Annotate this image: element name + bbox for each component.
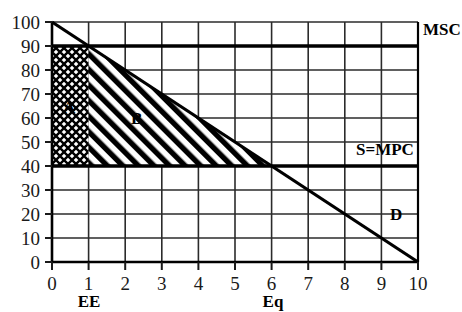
y-tick-label-80: 80	[0, 61, 40, 80]
x-tick-label-4: 4	[183, 274, 213, 293]
x-tick-label-7: 7	[293, 274, 323, 293]
x-tick-label-1: 1	[74, 274, 104, 293]
x-tick-label-9: 9	[366, 274, 396, 293]
x-tick-label-10: 10	[403, 274, 433, 293]
y-tick-label-60: 60	[0, 109, 40, 128]
x-tick-label-0: 0	[37, 274, 67, 293]
region-a-label: A	[63, 99, 75, 116]
msc-curve-label: MSC	[423, 21, 461, 38]
y-tick-label-90: 90	[0, 37, 40, 56]
y-tick-label-50: 50	[0, 133, 40, 152]
x-marker-eq: Eq	[252, 293, 294, 310]
x-tick-label-2: 2	[110, 274, 140, 293]
x-tick-label-5: 5	[220, 274, 250, 293]
demand-curve-label: D	[390, 206, 402, 223]
y-tick-label-40: 40	[0, 157, 40, 176]
y-tick-label-0: 0	[0, 253, 40, 272]
y-tick-label-30: 30	[0, 181, 40, 200]
y-tick-label-100: 100	[0, 13, 40, 32]
x-tick-label-3: 3	[147, 274, 177, 293]
smpc-curve-label: S=MPC	[356, 141, 414, 158]
x-tick-label-8: 8	[330, 274, 360, 293]
externality-chart: 100 90 80 70 60 50 40 30 20 10 0 0 1 2 3…	[0, 0, 462, 312]
x-tick-label-6: 6	[257, 274, 287, 293]
y-tick-label-20: 20	[0, 205, 40, 224]
region-b-label: B	[131, 110, 142, 127]
y-tick-label-10: 10	[0, 229, 40, 248]
x-marker-ee: EE	[68, 293, 110, 310]
y-tick-label-70: 70	[0, 85, 40, 104]
